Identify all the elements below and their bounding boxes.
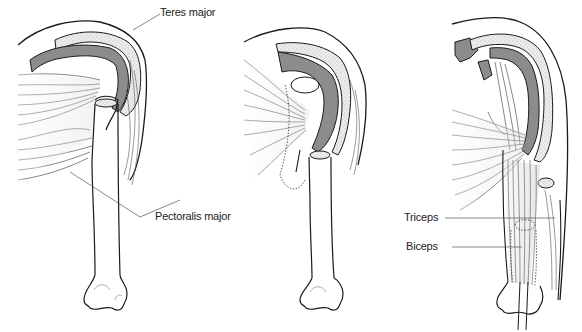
label-pectoralis-major: Pectoralis major	[155, 210, 231, 222]
label-triceps: Triceps	[404, 211, 438, 223]
label-biceps: Biceps	[406, 240, 438, 252]
leader-teres-major	[133, 14, 160, 30]
panel-1-shoulder	[18, 14, 180, 310]
label-teres-major: Teres major	[160, 6, 215, 18]
anatomy-figure: Teres major Pectoralis major Triceps Bic…	[0, 0, 582, 332]
panel-2-shoulder	[244, 28, 366, 310]
panel-3-shoulder	[445, 18, 568, 330]
